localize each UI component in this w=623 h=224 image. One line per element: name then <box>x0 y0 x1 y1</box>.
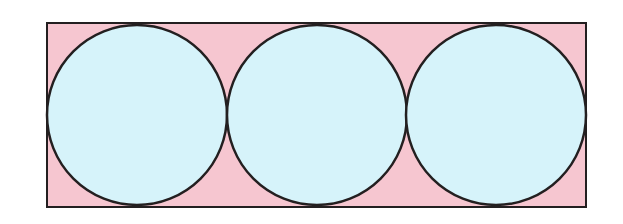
circle-3 <box>406 25 586 205</box>
circle-2 <box>227 25 407 205</box>
circles-in-rectangle-diagram <box>0 0 623 224</box>
circle-1 <box>47 25 227 205</box>
circles-group <box>47 25 586 205</box>
